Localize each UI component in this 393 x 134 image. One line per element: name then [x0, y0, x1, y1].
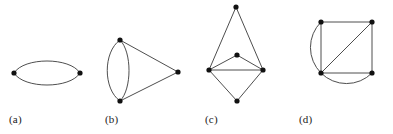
panel-d-vertex-top-left	[318, 19, 323, 24]
panel-a-vertex-right	[77, 70, 82, 75]
panel-b-caption: (b)	[105, 113, 118, 125]
panel-c-graph	[206, 4, 265, 103]
panel-a-graph	[11, 61, 82, 85]
panel-d-vertex-top-right	[369, 19, 374, 24]
panel-c-edge-top-right	[236, 7, 263, 70]
panel-c-edge-left-bottom	[209, 70, 237, 101]
panel-a-vertex-left	[11, 70, 16, 75]
panel-c-vertex-bottom	[234, 98, 239, 103]
figure-page: { "figure": { "background": "#ffffff", "…	[0, 0, 393, 134]
panel-c-vertex-left	[206, 67, 211, 72]
panel-c-edge-centre-right	[237, 55, 263, 70]
panel-b-vertex-right	[175, 69, 180, 74]
panel-b-edge-right-arc	[120, 40, 129, 101]
panel-c-vertex-top	[233, 4, 238, 9]
panel-d-caption: (d)	[299, 113, 312, 125]
panel-b-vertex-top	[117, 37, 122, 42]
panel-a-caption: (a)	[9, 113, 22, 125]
panel-c-edge-right-bottom	[237, 70, 263, 101]
panel-b-vertex-bottom	[117, 98, 122, 103]
panel-c-edge-centre-left	[209, 55, 237, 70]
panel-c-vertex-centre	[234, 52, 239, 57]
graph-figure-canvas	[0, 0, 393, 134]
panel-d-graph	[310, 19, 374, 83]
panel-d-edge-diagonal	[321, 22, 372, 73]
panel-c-caption: (c)	[205, 113, 218, 125]
panel-d-vertex-bottom-left	[318, 70, 323, 75]
panel-c-edge-top-left	[209, 7, 236, 70]
panel-d-vertex-bottom-right	[369, 70, 374, 75]
panel-a-edge-lower	[14, 73, 80, 85]
panel-a-edge-upper	[14, 61, 80, 73]
panel-b-edge-left-arc	[107, 40, 120, 101]
panel-c-vertex-right	[260, 67, 265, 72]
panel-b-graph	[107, 37, 180, 103]
